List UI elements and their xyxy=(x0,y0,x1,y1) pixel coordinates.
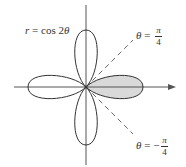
origin-point xyxy=(85,86,88,89)
label-theta-neg-pi-over-4: θ = −π4 xyxy=(136,136,168,157)
polar-rose-diagram: r = cos 2θ θ = π4 θ = −π4 xyxy=(0,0,186,167)
fraction: π4 xyxy=(155,26,162,47)
x-axis-arrow-icon xyxy=(168,84,176,90)
label-theta-pi-over-4: θ = π4 xyxy=(136,26,162,47)
fraction: π4 xyxy=(161,136,168,157)
equation-label: r = cos 2θ xyxy=(25,25,69,36)
